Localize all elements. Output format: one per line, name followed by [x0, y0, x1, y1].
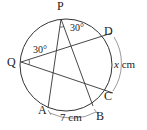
segment-QC	[21, 62, 113, 93]
angle-arc-P	[60, 27, 64, 28]
arc-label-DC: x cm	[113, 58, 136, 70]
label-D: D	[104, 24, 113, 38]
arc-unit: cm	[119, 58, 136, 70]
label-B: B	[96, 109, 104, 123]
segment-PA	[48, 19, 61, 108]
angle-label-P: 30°	[70, 22, 84, 33]
arc-label-AB: 7 cm	[60, 111, 82, 123]
label-A: A	[38, 103, 47, 117]
circle-diagram: P Q D C A B 30° 30° 7 cm x cm	[0, 0, 147, 130]
label-P: P	[57, 0, 64, 13]
angle-label-Q: 30°	[33, 44, 47, 55]
label-C: C	[104, 89, 112, 103]
tick-A	[48, 110, 51, 115]
label-Q: Q	[7, 55, 16, 69]
